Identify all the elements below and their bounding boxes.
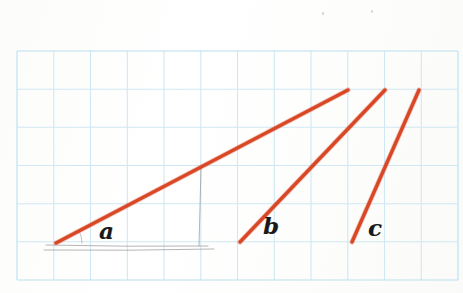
line-label-c: c bbox=[368, 216, 382, 239]
graph-paper-figure: a b c bbox=[0, 0, 463, 293]
line-label-a: a bbox=[99, 219, 114, 242]
red-slope-lines bbox=[0, 0, 463, 293]
scan-speck-2 bbox=[371, 10, 373, 13]
line-label-b: b bbox=[263, 214, 279, 237]
